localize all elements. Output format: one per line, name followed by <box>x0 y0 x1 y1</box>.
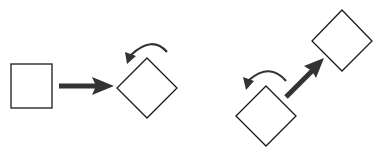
translate-diagonal-arrow-icon <box>286 58 324 97</box>
translate-right-arrow-icon <box>59 77 114 95</box>
diagram-canvas <box>0 0 381 157</box>
diamond-rotated <box>117 58 177 118</box>
square-start <box>11 64 52 108</box>
